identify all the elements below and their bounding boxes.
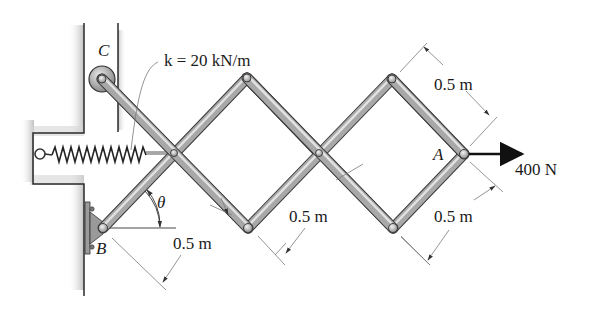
pin-center-1: [171, 150, 178, 157]
label-spring-constant: k = 20 kN/m: [164, 51, 251, 70]
wall-support: [20, 23, 126, 296]
label-dim-bottom-right: 0.5 m: [434, 207, 473, 226]
label-dim-bottom-left: 0.5 m: [173, 234, 212, 253]
pin-c: [98, 75, 106, 83]
pin-b: [99, 224, 108, 233]
label-point-a: A: [432, 145, 444, 164]
pin-bottom-1: [244, 224, 253, 233]
label-dim-bottom-mid: 0.5 m: [289, 207, 328, 226]
pin-top-2: [388, 75, 396, 83]
label-angle-theta: θ: [157, 193, 165, 212]
label-point-b: B: [96, 239, 107, 258]
label-dim-top-right: 0.5 m: [434, 75, 473, 94]
pin-a: [460, 150, 469, 159]
diagram-canvas: C B A θ k = 20 kN/m 400 N 0.5 m 0.5 m 0.…: [0, 0, 590, 311]
spring: [35, 147, 174, 162]
label-force: 400 N: [515, 160, 557, 179]
pin-center-2: [316, 150, 323, 157]
label-point-c: C: [98, 41, 110, 60]
pin-top-1: [243, 74, 251, 82]
pin-bottom-2: [389, 224, 398, 233]
